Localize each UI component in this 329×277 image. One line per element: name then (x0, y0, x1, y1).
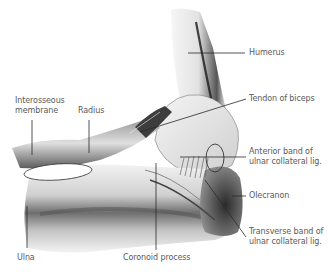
label-olecranon: Olecranon (249, 191, 289, 201)
label-transverse-band-line2: ulnar collateral lig. (249, 237, 323, 247)
elbow-anatomy-diagram: Humerus Tendon of biceps Interosseous me… (0, 0, 329, 277)
label-humerus: Humerus (249, 48, 285, 58)
label-tendon-of-biceps: Tendon of biceps (249, 94, 315, 104)
label-anterior-band-line1: Anterior band of (249, 147, 322, 157)
label-interosseous-line2: membrane (15, 106, 65, 116)
label-radius: Radius (78, 106, 104, 116)
label-ulna: Ulna (17, 253, 35, 263)
label-interosseous-line1: Interosseous (15, 96, 65, 106)
label-coronoid-process: Coronoid process (123, 253, 190, 263)
olecranon-region (200, 166, 243, 236)
label-anterior-band: Anterior band of ulnar collateral lig. (249, 147, 322, 167)
label-interosseous-membrane: Interosseous membrane (15, 96, 65, 116)
label-anterior-band-line2: ulnar collateral lig. (249, 157, 322, 167)
condyle-region (155, 95, 238, 175)
label-transverse-band-line1: Transverse band of (249, 227, 323, 237)
label-transverse-band: Transverse band of ulnar collateral lig. (249, 227, 323, 247)
